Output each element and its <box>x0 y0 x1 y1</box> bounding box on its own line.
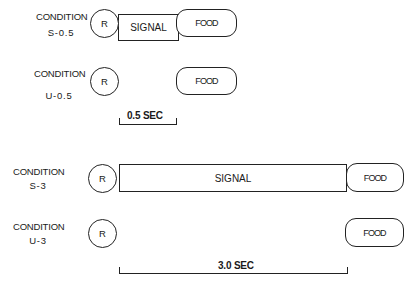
response-circle-u-3: R <box>88 219 117 248</box>
signal-box-s-0.5: SIGNAL <box>118 14 179 41</box>
response-label: R <box>99 228 106 239</box>
condition-word: CONDITION <box>13 221 65 232</box>
food-box-u-3: FOOD <box>345 218 404 247</box>
response-circle-s-3: R <box>88 164 117 193</box>
condition-code: U-3 <box>13 235 63 247</box>
response-label: R <box>101 18 108 29</box>
scale-label-3.0-sec: 3.0 SEC <box>218 260 254 271</box>
condition-word: CONDITION <box>34 68 86 79</box>
response-label: R <box>99 173 106 184</box>
response-label: R <box>101 76 108 87</box>
condition-label-u-0.5: CONDITION U-0.5 <box>34 68 84 102</box>
condition-word: CONDITION <box>13 166 65 177</box>
condition-word: CONDITION <box>36 11 88 22</box>
signal-box-s-3: SIGNAL <box>119 164 347 192</box>
food-box-s-3: FOOD <box>346 163 404 192</box>
scale-label-0.5-sec: 0.5 SEC <box>127 110 163 121</box>
food-label: FOOD <box>363 228 385 238</box>
response-circle-u-0.5: R <box>90 67 119 96</box>
food-label: FOOD <box>195 18 217 28</box>
condition-label-s-3: CONDITION S-3 <box>13 166 63 192</box>
response-circle-s-0.5: R <box>90 9 119 38</box>
food-box-u-0.5: FOOD <box>176 67 237 95</box>
food-label: FOOD <box>195 76 217 86</box>
food-label: FOOD <box>364 173 386 183</box>
signal-label: SIGNAL <box>215 173 252 184</box>
condition-code: S-3 <box>13 180 63 192</box>
condition-code: S-0.5 <box>36 27 86 39</box>
signal-label: SIGNAL <box>130 22 167 33</box>
condition-label-s-0.5: CONDITION S-0.5 <box>36 11 86 39</box>
food-box-s-0.5: FOOD <box>176 9 237 37</box>
condition-code: U-0.5 <box>34 90 84 102</box>
condition-label-u-3: CONDITION U-3 <box>13 221 63 247</box>
